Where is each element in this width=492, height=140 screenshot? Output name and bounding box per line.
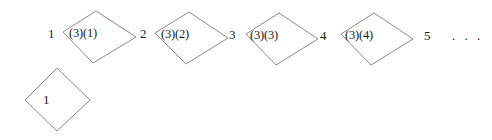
kite-shape-base	[25, 68, 90, 131]
kite-label-3: (3)(3)	[250, 29, 278, 42]
kite-label-1: (3)(1)	[69, 27, 97, 40]
kite-label-2: (3)(2)	[161, 28, 189, 41]
ellipsis: . . .	[452, 29, 483, 42]
figure-canvas: 1 2 3 4 5 . . . (3)(1) (3)(2) (3)(3) (3)…	[0, 0, 492, 140]
kite-label-4: (3)(4)	[345, 29, 373, 42]
sequence-number-2: 2	[140, 27, 147, 40]
sequence-number-3: 3	[229, 28, 236, 41]
figure-outlines	[0, 0, 492, 140]
kite-label-base: 1	[43, 93, 50, 106]
sequence-number-4: 4	[320, 29, 327, 42]
sequence-number-1: 1	[48, 27, 55, 40]
sequence-number-5: 5	[424, 29, 431, 42]
